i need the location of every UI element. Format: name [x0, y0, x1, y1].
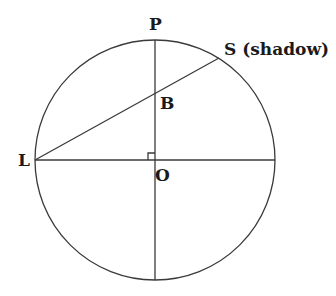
- label-B: B: [160, 93, 174, 113]
- label-S: S (shadow): [224, 39, 329, 59]
- right-angle-marker: [148, 153, 155, 160]
- geometry-diagram: P S (shadow) B L O: [0, 0, 336, 296]
- label-P: P: [149, 14, 162, 34]
- label-L: L: [18, 150, 30, 170]
- label-O: O: [155, 165, 170, 185]
- line-LS: [35, 58, 219, 160]
